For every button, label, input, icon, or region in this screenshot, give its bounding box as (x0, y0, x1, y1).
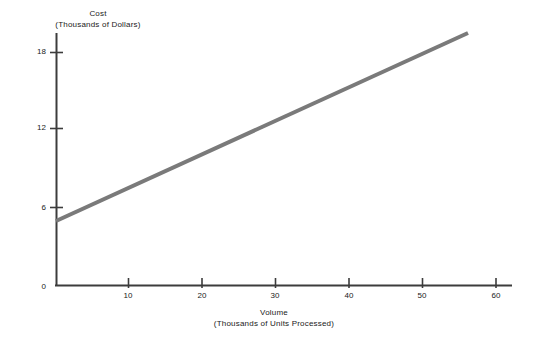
x-tick-label-20: 20 (190, 291, 214, 300)
x-axis-title-line2: (Thousands of Units Processed) (124, 318, 424, 329)
total-cost-line (56, 33, 468, 221)
x-tick-label-50: 50 (410, 291, 434, 300)
cost-volume-chart: Cost (Thousands of Dollars) 18 12 6 0 10… (0, 0, 534, 348)
x-tick-label-40: 40 (337, 291, 361, 300)
x-axis-title: Volume (Thousands of Units Processed) (124, 307, 424, 329)
y-tick-label-18: 18 (22, 47, 46, 56)
x-tick-label-30: 30 (263, 291, 287, 300)
x-tick-label-60: 60 (484, 291, 508, 300)
y-tick-label-0: 0 (22, 282, 46, 291)
x-axis-title-line1: Volume (124, 307, 424, 318)
y-tick-label-6: 6 (22, 203, 46, 212)
y-tick-label-12: 12 (22, 123, 46, 132)
x-tick-label-10: 10 (116, 291, 140, 300)
